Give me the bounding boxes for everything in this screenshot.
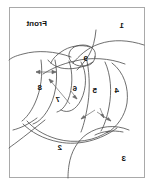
figure-label-6: 6: [73, 85, 77, 93]
dimension-arrows: [36, 70, 111, 121]
figure-label-7: 7: [56, 96, 60, 104]
curve-lower-left-tail: [68, 127, 129, 178]
arrow-double-segment-8: [36, 70, 56, 74]
figure-label-3: 3: [122, 155, 126, 163]
figure-label-1: 1: [120, 22, 124, 30]
figure-plate: 1 2 3 4 5 6 7 8 9 Front: [0, 0, 153, 193]
mirrored-drawing-container: 1 2 3 4 5 6 7 8 9 Front: [0, 0, 153, 193]
arrow-lower-left-tick: [100, 108, 104, 118]
line-drawing: [0, 0, 153, 193]
figure-label-8: 8: [38, 84, 42, 92]
rib-7-8: [33, 60, 57, 124]
figure-label-2: 2: [58, 144, 62, 152]
figure-label-9: 9: [84, 55, 88, 63]
figure-label-5: 5: [93, 87, 97, 95]
figure-label-front: Front: [27, 20, 47, 28]
arrow-lower-left-down-right: [81, 110, 95, 119]
curve-top-right-sweep: [9, 52, 71, 60]
arrow-lower-left-up: [97, 112, 111, 121]
figure-label-4: 4: [115, 87, 119, 95]
